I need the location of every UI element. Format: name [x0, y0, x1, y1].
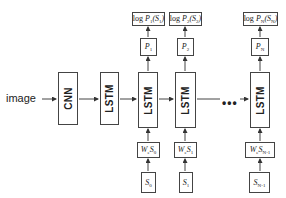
lstm-step-1: LSTM — [138, 72, 158, 128]
cnn-label: CNN — [63, 87, 74, 110]
lstm-step-n: LSTM — [250, 72, 270, 128]
encoder-lstm-block: LSTM — [100, 72, 119, 125]
prob-box-n: PN — [251, 38, 269, 56]
ellipsis: ••• — [222, 96, 238, 110]
embed-box-1: WeS0 — [137, 142, 160, 158]
log-prob-box-2: log P2(S2) — [169, 12, 202, 26]
log-prob-box-1: log P1(S1) — [132, 12, 165, 26]
log-prob-box-n: log PN(SN) — [243, 12, 278, 26]
embed-box-2: WeS1 — [174, 142, 197, 158]
lstm-label: LSTM — [104, 84, 115, 112]
word-input-box-n: SN-1 — [249, 172, 270, 193]
word-input-box-2: S1 — [179, 172, 193, 193]
embed-box-n: WeSN-1 — [245, 142, 275, 158]
lstm-step-2: LSTM — [175, 72, 196, 128]
word-input-box-1: S0 — [141, 172, 156, 193]
cnn-block: CNN — [58, 72, 78, 125]
prob-box-2: P2 — [177, 38, 194, 56]
lstm-label: LSTM — [143, 86, 154, 114]
prob-box-1: P1 — [140, 38, 157, 56]
image-input-label: image — [6, 92, 36, 104]
lstm-label: LSTM — [180, 86, 191, 114]
lstm-label: LSTM — [255, 86, 266, 114]
